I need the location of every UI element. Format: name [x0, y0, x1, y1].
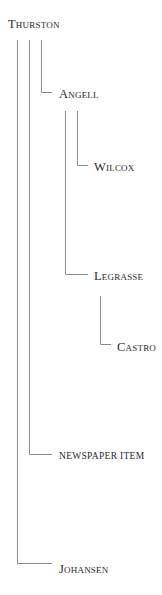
- node-legrasse: Legrasse: [94, 269, 143, 284]
- node-johansen: Johansen: [59, 562, 108, 577]
- node-angell: Angell: [59, 87, 99, 102]
- connector-thurston-angell: [42, 40, 53, 93]
- node-wilcox: Wilcox: [94, 160, 135, 175]
- node-castro: Castro: [117, 340, 156, 355]
- node-thurston: Thurston: [8, 17, 60, 32]
- connector-angell-legrasse: [66, 111, 89, 275]
- connector-angell-wilcox: [78, 111, 89, 166]
- connector-thurston-newspaper: [30, 40, 53, 455]
- connector-legrasse-castro: [101, 296, 112, 345]
- connector-thurston-johansen: [18, 40, 53, 564]
- node-newspaper-item: NEWSPAPER ITEM: [59, 451, 144, 461]
